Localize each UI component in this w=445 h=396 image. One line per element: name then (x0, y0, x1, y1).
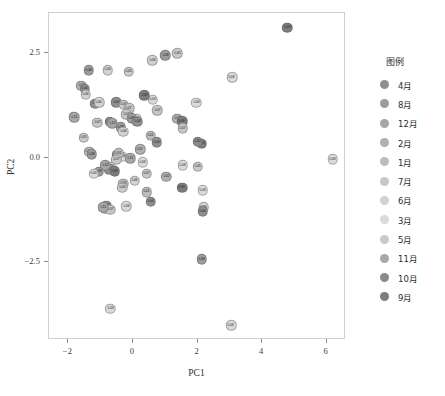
data-point-label: L09 (112, 169, 118, 173)
data-point-label: L03 (91, 172, 97, 176)
legend-item-2月[interactable]: 2月 (378, 133, 442, 152)
data-point-label: L03 (140, 160, 146, 164)
data-point: L11 (98, 202, 109, 213)
data-point-label: L05 (174, 51, 180, 55)
data-point: L08 (83, 65, 94, 76)
data-point: L04 (198, 206, 209, 217)
legend-swatch-icon (380, 119, 389, 128)
data-point: L03 (137, 157, 148, 168)
data-point-label: L07 (180, 126, 186, 130)
legend-item-label: 8月 (398, 98, 412, 110)
data-point: L09 (139, 90, 150, 101)
legend-item-8月[interactable]: 8月 (378, 94, 442, 113)
data-point: L07 (178, 123, 189, 134)
legend-item-1月[interactable]: 1月 (378, 152, 442, 171)
data-point-label: L03 (330, 157, 336, 161)
legend-item-label: 5月 (398, 233, 412, 245)
data-point-label: L12 (109, 121, 115, 125)
legend-entries: 4月8月12月2月1月7月6月3月5月11月10月9月 (378, 75, 442, 307)
legend-swatch-icon (380, 138, 389, 147)
data-point: L06 (147, 55, 158, 66)
legend-item-label: 1月 (398, 156, 412, 168)
x-axis-label: PC1 (48, 368, 345, 378)
legend-item-12月[interactable]: 12月 (378, 114, 442, 133)
legend-title: 图例 (386, 55, 442, 68)
data-point: L11 (69, 112, 80, 123)
data-point-label: L11 (127, 157, 133, 161)
data-point-label: L11 (100, 205, 106, 209)
x-axis-tick (261, 339, 262, 343)
data-point-label: L05 (194, 165, 200, 169)
scatter-plot-figure: L09L05L06L08L03L08L06L05L02L04L06L03L09L… (0, 0, 445, 396)
x-axis-tick-label: 2 (194, 346, 198, 356)
data-point: L06 (118, 126, 129, 137)
data-point: L03 (121, 201, 132, 212)
y-axis-tick (44, 261, 48, 262)
legend-item-label: 10月 (398, 272, 418, 284)
data-point-label: L06 (120, 130, 126, 134)
data-point-label: L09 (284, 26, 290, 30)
y-axis-label: PC2 (6, 159, 16, 175)
legend-swatch-icon (380, 215, 389, 224)
data-point-label: L06 (149, 58, 155, 62)
data-point-label: L08 (162, 53, 168, 57)
data-point: L03 (197, 185, 208, 196)
data-point-label: L03 (107, 307, 113, 311)
legend-item-label: 12月 (398, 117, 418, 129)
legend-item-6月[interactable]: 6月 (378, 191, 442, 210)
data-point: L06 (81, 90, 92, 101)
legend-item-label: 11月 (398, 252, 418, 264)
legend-swatch-icon (380, 80, 389, 89)
x-axis-tick (326, 339, 327, 343)
data-point: L07 (142, 168, 153, 179)
y-axis-tick-label: 0.0 (12, 152, 40, 162)
data-point: L08 (160, 50, 171, 61)
data-point-label: L09 (141, 93, 147, 97)
y-axis-tick (44, 157, 48, 158)
data-point-label: L06 (132, 179, 138, 183)
data-point-label: L03 (123, 204, 129, 208)
data-point-label: L04 (134, 120, 140, 124)
legend-swatch-icon (380, 157, 389, 166)
data-point-label: L02 (163, 175, 169, 179)
data-point: L03 (227, 72, 238, 83)
data-point: L09 (110, 166, 121, 177)
data-point: L04 (151, 137, 162, 148)
data-point-label: L07 (94, 121, 100, 125)
data-point: L03 (89, 168, 100, 179)
y-axis-tick (44, 52, 48, 53)
legend-item-10月[interactable]: 10月 (378, 268, 442, 287)
legend-item-3月[interactable]: 3月 (378, 210, 442, 229)
data-point-label: L03 (193, 101, 199, 105)
data-point-label: L11 (71, 115, 77, 119)
data-point: L08 (196, 254, 207, 265)
legend-swatch-icon (380, 177, 389, 186)
data-point: L05 (192, 162, 203, 173)
legend-item-9月[interactable]: 9月 (378, 287, 442, 306)
data-point-label: L05 (81, 136, 87, 140)
data-point: L08 (86, 149, 97, 160)
data-point: L01 (142, 187, 153, 198)
legend-item-5月[interactable]: 5月 (378, 229, 442, 248)
data-point: L05 (123, 66, 134, 77)
legend-swatch-icon (380, 235, 389, 244)
y-axis-tick-label: 2.5 (12, 47, 40, 57)
data-point: L11 (125, 153, 136, 164)
legend-item-11月[interactable]: 11月 (378, 249, 442, 268)
data-point-label: L01 (144, 190, 150, 194)
y-axis-tick-label: −2.5 (12, 256, 40, 266)
data-point-label: L07 (144, 172, 150, 176)
legend-item-4月[interactable]: 4月 (378, 75, 442, 94)
plot-area: L09L05L06L08L03L08L06L05L02L04L06L03L09L… (48, 12, 345, 339)
data-point: L03 (105, 303, 116, 314)
data-point-label: L04 (153, 140, 159, 144)
x-axis-tick (67, 339, 68, 343)
data-point-label: L06 (83, 93, 89, 97)
data-point-label: L07 (154, 108, 160, 112)
data-point: L06 (129, 175, 140, 186)
data-point-label: L04 (148, 200, 154, 204)
data-point: L02 (135, 144, 146, 155)
legend-item-7月[interactable]: 7月 (378, 171, 442, 190)
x-axis-tick (197, 339, 198, 343)
data-point-label: L10 (194, 140, 200, 144)
